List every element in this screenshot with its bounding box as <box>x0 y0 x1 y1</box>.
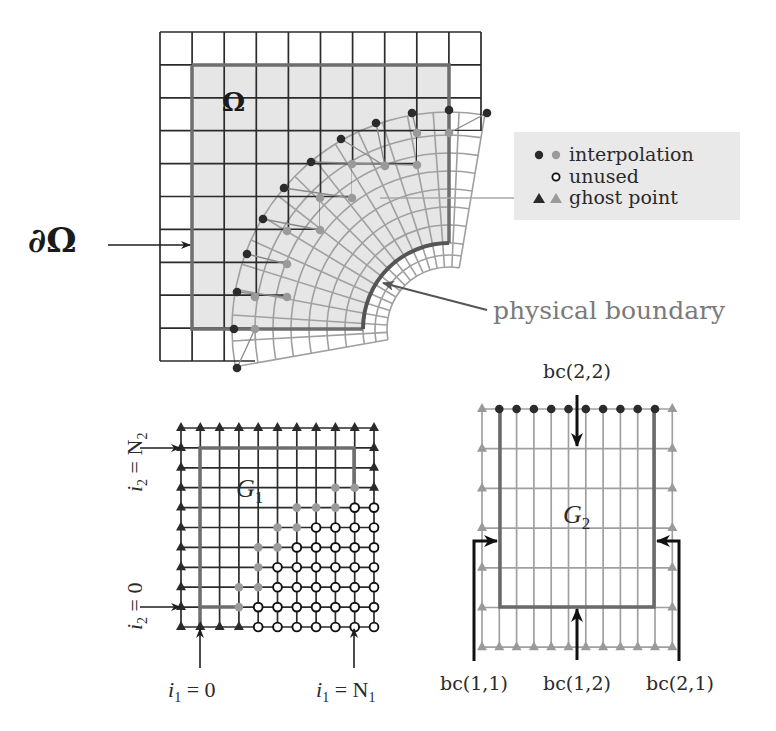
ghost-point <box>667 403 677 412</box>
unused-point <box>331 583 340 592</box>
unused-point <box>273 563 282 572</box>
ghost-point <box>195 422 205 431</box>
figure-canvas: Ω ∂Ω physical boundary interpolation unu… <box>0 0 776 731</box>
ghost-point <box>369 482 379 491</box>
interp-dot-black <box>233 364 242 373</box>
ghost-point <box>176 601 186 610</box>
interp-dot-gray <box>283 260 292 269</box>
interp-dot-gray <box>254 583 263 592</box>
black-dot-icon <box>535 151 543 159</box>
unused-point <box>273 583 282 592</box>
interp-dot-gray <box>251 325 260 334</box>
ghost-point <box>477 522 487 531</box>
ghost-point <box>176 422 186 431</box>
ghost-point <box>667 443 677 452</box>
interp-dot-black <box>599 405 608 414</box>
ghost-point <box>477 602 487 611</box>
interp-dot-black <box>243 250 252 259</box>
unused-point <box>312 543 321 552</box>
boundary-label: ∂Ω <box>28 220 76 260</box>
unused-point <box>331 623 340 632</box>
interp-dot-black <box>530 405 539 414</box>
domain-label: Ω <box>222 87 245 117</box>
unused-point <box>312 623 321 632</box>
interp-dot-black <box>445 106 454 115</box>
unused-point <box>312 523 321 532</box>
interp-dot-gray <box>283 227 292 236</box>
ghost-point <box>234 422 244 431</box>
grid-g2-panel: G2 bc(2,2) bc(1,1) bc(1,2) bc(2,1) <box>440 360 714 694</box>
unused-point <box>312 563 321 572</box>
ghost-point <box>176 581 186 590</box>
ghost-point <box>176 541 186 550</box>
interp-dot-gray <box>235 583 244 592</box>
interp-dot-black <box>512 405 521 414</box>
unused-point <box>292 583 301 592</box>
ghost-point <box>512 641 522 650</box>
unused-point <box>331 603 340 612</box>
unused-point <box>350 603 359 612</box>
interp-dot-black <box>233 288 242 297</box>
ghost-point <box>667 562 677 571</box>
interp-dot-gray <box>254 543 263 552</box>
interp-dot-gray <box>331 483 340 492</box>
grid-g1-panel: G1 i2 = N2 i2 = 0 i1 = 0 i1 = N1 <box>122 422 379 705</box>
ghost-point <box>273 422 283 431</box>
label-i1-right: i1 = N1 <box>316 677 375 705</box>
unused-point <box>273 603 282 612</box>
ghost-point <box>546 641 556 650</box>
ghost-point <box>667 482 677 491</box>
ghost-point <box>529 641 539 650</box>
bc-right-label: bc(2,1) <box>646 672 714 694</box>
ghost-point <box>176 482 186 491</box>
interp-dot-black <box>616 405 625 414</box>
gray-dot-icon <box>552 151 560 159</box>
unused-point <box>292 543 301 552</box>
interp-dot-gray <box>312 503 321 512</box>
label-i2-top: i2 = N2 <box>122 433 150 492</box>
ghost-point <box>176 442 186 451</box>
interp-dot-gray <box>273 523 282 532</box>
ghost-point <box>477 403 487 412</box>
interp-dot-gray <box>381 162 390 171</box>
interp-dot-black <box>495 405 504 414</box>
interp-dot-black <box>483 109 492 118</box>
ghost-point <box>667 522 677 531</box>
unused-point <box>350 583 359 592</box>
ghost-point <box>564 641 574 650</box>
ghost-point <box>311 422 321 431</box>
interp-dot-gray <box>235 603 244 612</box>
interp-dot-black <box>259 215 268 224</box>
ghost-point <box>477 641 487 650</box>
ghost-point <box>253 422 263 431</box>
interp-dot-gray <box>350 483 359 492</box>
ghost-point <box>176 561 186 570</box>
interp-dot-gray <box>348 160 357 169</box>
ghost-point <box>581 641 591 650</box>
ghost-point <box>234 621 244 630</box>
ghost-point <box>176 502 186 511</box>
label-i1-left: i1 = 0 <box>168 677 216 705</box>
legend-label: interpolation <box>569 143 694 165</box>
top-panel: Ω ∂Ω physical boundary interpolation unu… <box>28 32 740 372</box>
ghost-point <box>369 422 379 431</box>
unused-point <box>312 583 321 592</box>
interp-dot-gray <box>348 194 357 203</box>
unused-point <box>370 543 379 552</box>
ghost-point <box>350 422 360 431</box>
interp-dot-black <box>337 135 346 144</box>
ghost-point <box>477 562 487 571</box>
unused-point <box>292 623 301 632</box>
interp-dot-black <box>651 405 660 414</box>
unused-point <box>370 583 379 592</box>
ghost-point <box>494 641 504 650</box>
unused-point <box>350 523 359 532</box>
ghost-point <box>598 641 608 650</box>
bc-bottom-label: bc(1,2) <box>543 672 611 694</box>
unused-point <box>292 603 301 612</box>
ghost-point <box>330 422 340 431</box>
interp-dot-black <box>408 109 417 118</box>
unused-point <box>254 603 263 612</box>
unused-point <box>292 563 301 572</box>
ghost-point <box>176 522 186 531</box>
